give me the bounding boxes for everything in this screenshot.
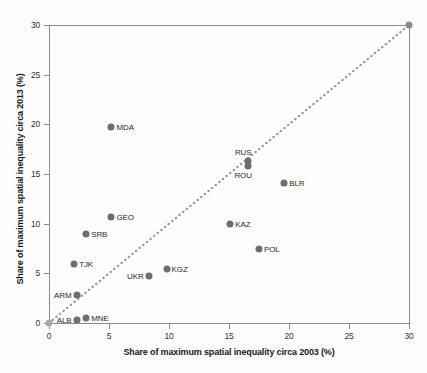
x-tick-label: 10 — [164, 331, 173, 341]
x-tick-mark — [409, 324, 410, 329]
x-tick-mark — [109, 324, 110, 329]
data-point-label-arm: ARM — [54, 291, 71, 300]
data-point-label-rus: RUS — [235, 148, 252, 157]
y-tick-label: 20 — [31, 119, 40, 129]
x-tick-mark — [169, 324, 170, 329]
data-point-srb — [83, 230, 90, 237]
x-tick-label: 30 — [404, 331, 413, 341]
data-point-label-srb: SRB — [91, 229, 107, 238]
data-point-label-rou: ROU — [234, 171, 251, 180]
plot-area — [49, 25, 410, 324]
y-tick-label: 5 — [35, 268, 40, 278]
y-tick-mark — [44, 174, 49, 175]
y-tick-label: 0 — [35, 318, 40, 328]
y-tick-mark — [44, 273, 49, 274]
data-point-label-pol: POL — [264, 244, 280, 253]
data-point-arm — [73, 292, 80, 299]
data-point-label-geo: GEO — [116, 212, 133, 221]
data-point-mda — [108, 124, 115, 131]
data-point-kaz — [227, 220, 234, 227]
y-tick-label: 10 — [31, 219, 40, 229]
x-tick-label: 5 — [107, 331, 112, 341]
x-axis-title: Share of maximum spatial inequality circ… — [49, 347, 409, 357]
y-tick-label: 25 — [31, 70, 40, 80]
x-tick-label: 20 — [284, 331, 293, 341]
y-tick-label: 15 — [31, 169, 40, 179]
x-tick-label: 25 — [344, 331, 353, 341]
data-point-label-blr: BLR — [289, 178, 304, 187]
x-tick-mark — [349, 324, 350, 329]
data-point-mne — [83, 315, 90, 322]
data-point-kgz — [163, 266, 170, 273]
x-tick-mark — [289, 324, 290, 329]
x-tick-mark — [229, 324, 230, 329]
data-point-tjk — [71, 261, 78, 268]
y-axis-title: Share of maximum spatial inequality circ… — [15, 30, 25, 328]
data-point-label-alb: ALB — [57, 316, 72, 325]
data-point-alb — [73, 317, 80, 324]
x-tick-label: 0 — [47, 331, 52, 341]
data-point-unlabeled — [46, 320, 53, 327]
data-point-label-mne: MNE — [91, 314, 108, 323]
data-point-pol — [256, 245, 263, 252]
y-tick-mark — [44, 124, 49, 125]
y-tick-label: 30 — [31, 20, 40, 30]
data-point-rus — [245, 158, 252, 165]
data-point-label-kgz: KGZ — [172, 265, 188, 274]
data-point-unlabeled — [406, 22, 413, 29]
y-tick-mark — [44, 224, 49, 225]
x-tick-label: 15 — [224, 331, 233, 341]
scatter-chart-figure: 051015202530 051015202530 ALBMNEARMUKRKG… — [0, 0, 427, 373]
data-point-label-kaz: KAZ — [235, 219, 250, 228]
data-point-geo — [108, 213, 115, 220]
y-tick-mark — [44, 75, 49, 76]
data-point-ukr — [145, 273, 152, 280]
data-point-label-tjk: TJK — [79, 260, 93, 269]
data-point-label-mda: MDA — [116, 123, 133, 132]
data-point-blr — [281, 179, 288, 186]
y-tick-mark — [44, 25, 49, 26]
y-axis-line — [49, 25, 50, 324]
data-point-label-ukr: UKR — [127, 272, 144, 281]
